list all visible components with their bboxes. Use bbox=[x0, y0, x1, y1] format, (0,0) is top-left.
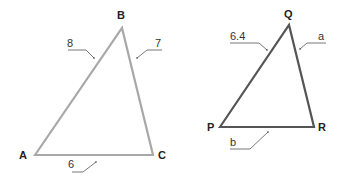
side-qr-leader bbox=[300, 43, 326, 49]
side-ab-leader bbox=[68, 50, 94, 58]
triangle-abc-shape bbox=[35, 28, 153, 155]
side-ac-leader bbox=[72, 162, 96, 172]
side-qr-label: a bbox=[318, 30, 325, 42]
side-pr-label: b bbox=[230, 136, 236, 148]
vertex-r-label: R bbox=[318, 121, 326, 133]
triangle-abc: A B C 8 7 6 bbox=[19, 9, 166, 172]
side-pq-leader bbox=[230, 43, 267, 50]
triangle-pqr: P Q R 6.4 a b bbox=[207, 8, 326, 149]
side-ac-label: 6 bbox=[68, 158, 74, 170]
side-bc-label: 7 bbox=[155, 37, 161, 49]
vertex-p-label: P bbox=[207, 121, 214, 133]
vertex-b-label: B bbox=[117, 9, 125, 21]
vertex-a-label: A bbox=[19, 149, 27, 161]
side-pq-label: 6.4 bbox=[230, 30, 245, 42]
similar-triangles-diagram: A B C 8 7 6 P Q R 6.4 a b bbox=[0, 0, 345, 179]
vertex-c-label: C bbox=[158, 149, 166, 161]
side-ab-label: 8 bbox=[67, 37, 73, 49]
side-bc-leader bbox=[137, 50, 162, 58]
vertex-q-label: Q bbox=[284, 8, 293, 20]
